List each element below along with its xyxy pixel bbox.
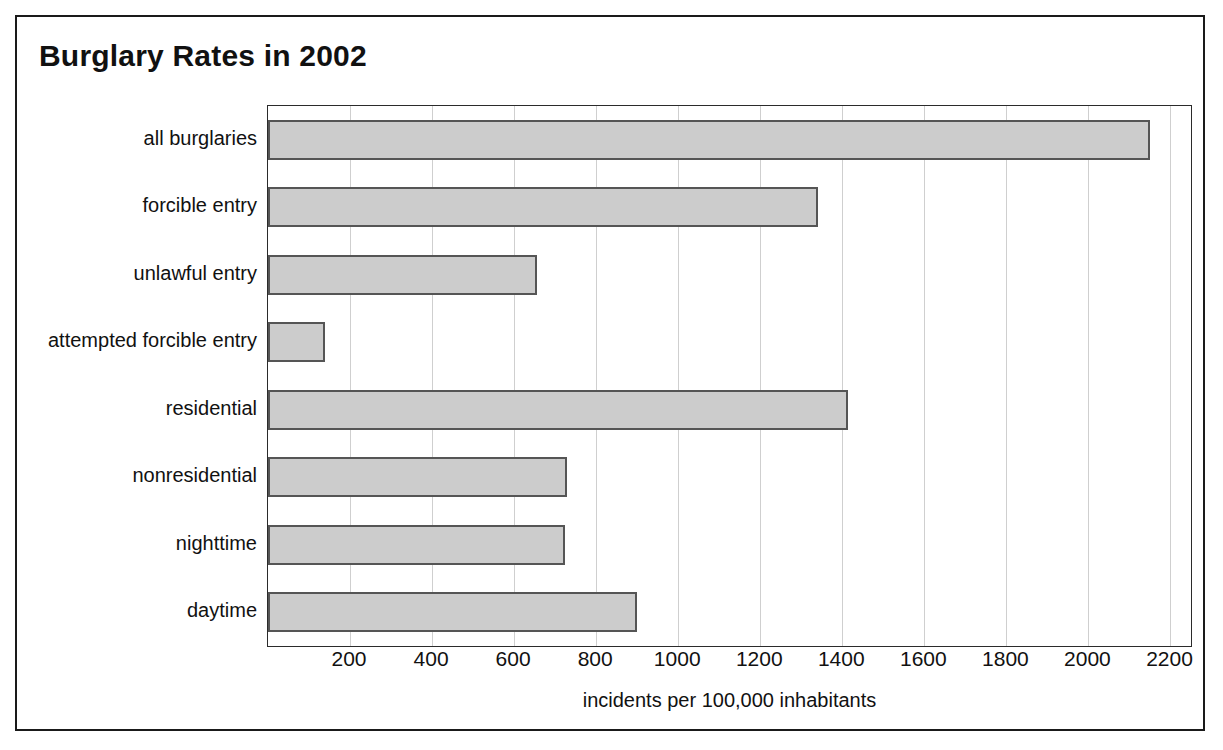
x-axis-tick-label: 1400 — [818, 647, 865, 671]
x-axis-tick-label: 1800 — [982, 647, 1029, 671]
x-axis-tick-label: 2200 — [1146, 647, 1193, 671]
x-axis-tick-labels: 2004006008001000120014001600180020002200 — [267, 647, 1192, 687]
plot-area — [267, 105, 1192, 647]
y-axis-label: unlawful entry — [134, 263, 257, 283]
bar-row — [268, 120, 1191, 160]
x-axis-tick-label: 1000 — [654, 647, 701, 671]
chart-title: Burglary Rates in 2002 — [39, 39, 367, 73]
bar — [268, 592, 637, 632]
bar — [268, 525, 565, 565]
bar — [268, 255, 537, 295]
bar — [268, 120, 1150, 160]
y-axis-label: forcible entry — [143, 195, 258, 215]
bar-row — [268, 255, 1191, 295]
x-axis-tick-label: 600 — [496, 647, 531, 671]
bar — [268, 187, 818, 227]
bar-row — [268, 457, 1191, 497]
x-axis-tick-label: 200 — [332, 647, 367, 671]
y-axis-label: daytime — [187, 600, 257, 620]
bar — [268, 322, 325, 362]
y-axis-label: residential — [166, 398, 257, 418]
bar-row — [268, 322, 1191, 362]
bar — [268, 457, 567, 497]
x-axis-tick-label: 1600 — [900, 647, 947, 671]
bar-row — [268, 187, 1191, 227]
bar — [268, 390, 848, 430]
bar-row — [268, 390, 1191, 430]
y-axis-label: all burglaries — [144, 128, 257, 148]
x-axis-tick-label: 2000 — [1064, 647, 1111, 671]
x-axis-tick-label: 800 — [578, 647, 613, 671]
y-axis-category-labels: all burglariesforcible entryunlawful ent… — [17, 105, 257, 647]
y-axis-label: nonresidential — [132, 465, 257, 485]
bar-row — [268, 592, 1191, 632]
y-axis-label: nighttime — [176, 533, 257, 553]
y-axis-label: attempted forcible entry — [48, 330, 257, 350]
x-axis-tick-label: 1200 — [736, 647, 783, 671]
x-axis-tick-label: 400 — [414, 647, 449, 671]
chart-figure: Burglary Rates in 2002 all burglariesfor… — [15, 15, 1205, 731]
bar-row — [268, 525, 1191, 565]
x-axis-title: incidents per 100,000 inhabitants — [267, 689, 1192, 712]
